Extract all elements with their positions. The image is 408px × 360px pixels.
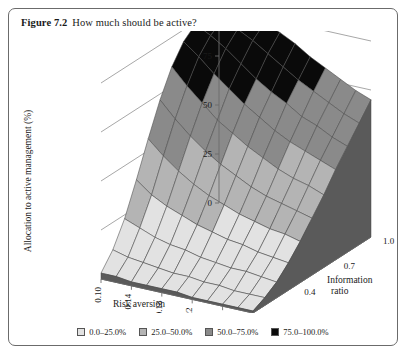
x-tick-label: 0.22: [184, 307, 194, 313]
chart-legend: 0.0–25.0%25.0–50.0%50.0–75.0%75.0–100.0%: [9, 327, 397, 337]
legend-entry: 75.0–100.0%: [271, 327, 328, 337]
x-tick-label: 0.10: [93, 287, 103, 303]
legend-label: 25.0–50.0%: [151, 327, 192, 337]
y-tick-label: 0.7: [344, 261, 356, 271]
legend-swatch: [77, 328, 85, 336]
x-axis-title: Risk aversion: [113, 299, 165, 309]
z-axis-title: Allocation to active management (%): [23, 110, 34, 252]
legend-entry: 25.0–50.0%: [139, 327, 192, 337]
figure-caption: Figure 7.2How much should be active?: [21, 17, 197, 28]
legend-entry: 0.0–25.0%: [77, 327, 126, 337]
legend-swatch: [205, 328, 213, 336]
chart-canvas: 0255075100 0.100.140.180.220.260.30 0.10…: [9, 31, 397, 313]
z-tick-label: 25: [203, 149, 213, 159]
legend-swatch: [271, 328, 279, 336]
legend-label: 0.0–25.0%: [89, 327, 126, 337]
surface-chart: 0255075100 0.100.140.180.220.260.30 0.10…: [9, 31, 397, 313]
legend-label: 75.0–100.0%: [283, 327, 328, 337]
z-tick-label: 75: [203, 51, 213, 61]
y-axis-title-line2: ratio: [331, 286, 349, 296]
z-tick-label: 50: [203, 100, 213, 110]
y-tick-label: 1.0: [383, 236, 395, 246]
legend-label: 50.0–75.0%: [217, 327, 258, 337]
y-axis-title-line1: Information: [327, 275, 373, 285]
figure-title: How much should be active?: [72, 17, 196, 28]
legend-entry: 50.0–75.0%: [205, 327, 258, 337]
legend-swatch: [139, 328, 147, 336]
figure-number: Figure 7.2: [21, 17, 67, 28]
surface-mesh: [101, 31, 371, 313]
y-tick-label: 0.1: [265, 312, 276, 313]
figure-frame: Figure 7.2How much should be active? 025…: [8, 8, 398, 346]
y-tick-label: 0.4: [304, 287, 316, 297]
z-tick-label: 0: [208, 198, 213, 208]
